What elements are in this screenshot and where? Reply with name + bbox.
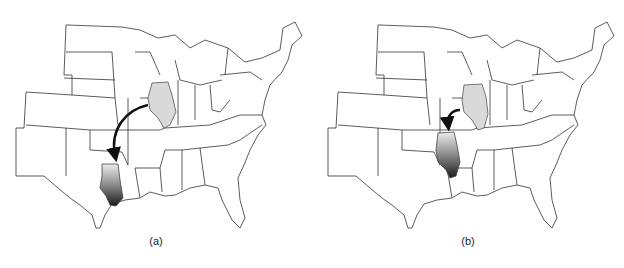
us-map-b xyxy=(312,0,624,230)
panel-b: (b) xyxy=(312,0,624,268)
caption-b: (b) xyxy=(312,235,624,247)
us-map-a xyxy=(0,0,312,230)
panel-a: (a) xyxy=(0,0,312,268)
caption-a: (a) xyxy=(0,235,312,247)
